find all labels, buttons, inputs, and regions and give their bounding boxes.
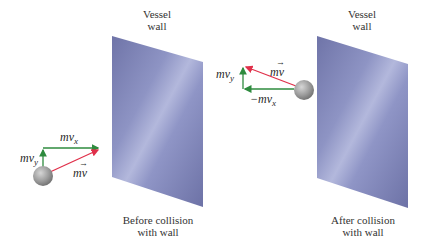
wall-label-line2: wall [341, 20, 383, 32]
label-neg-mvx-after: −mvx [250, 92, 276, 108]
wall-label-line1: Vessel [136, 8, 178, 20]
gas-molecule-before [33, 166, 53, 186]
label-mv-after: mv→ [270, 65, 284, 80]
caption-line2: with wall [112, 226, 204, 238]
caption-line1: Before collision [112, 214, 204, 226]
gas-molecule-after [294, 80, 314, 100]
label-mvy-before: mvy [20, 151, 38, 167]
diagram-canvas [0, 0, 425, 248]
wall-label-after: Vessel wall [341, 8, 383, 32]
wall-label-before: Vessel wall [136, 8, 178, 32]
vessel-wall-after [317, 36, 408, 208]
caption-line2: with wall [317, 226, 409, 238]
label-mvx-before: mvx [60, 130, 78, 146]
wall-label-line2: wall [136, 20, 178, 32]
vessel-wall-before [112, 36, 203, 207]
caption-before: Before collision with wall [112, 214, 204, 238]
label-mv-before: mv→ [73, 166, 87, 181]
wall-label-line1: Vessel [341, 8, 383, 20]
caption-after: After collision with wall [317, 214, 409, 238]
label-mvy-after: mvy [216, 67, 234, 83]
caption-line1: After collision [317, 214, 409, 226]
